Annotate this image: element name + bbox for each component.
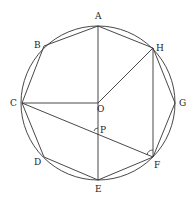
label-F: F (154, 160, 160, 170)
label-O: O (97, 104, 104, 114)
inner-segments (22, 26, 153, 180)
label-A: A (94, 11, 102, 21)
segment-CF (22, 103, 153, 157)
octagon-diagram: A H G F E D C B O P (0, 0, 196, 199)
label-E: E (95, 184, 102, 194)
label-C: C (10, 98, 17, 108)
segment-OH (98, 48, 153, 103)
label-P: P (100, 125, 106, 135)
angle-mark-F (147, 150, 153, 155)
label-H: H (156, 43, 164, 53)
angle-mark-P (94, 128, 98, 131)
label-G: G (179, 98, 186, 108)
label-D: D (34, 157, 41, 167)
label-B: B (34, 40, 41, 50)
